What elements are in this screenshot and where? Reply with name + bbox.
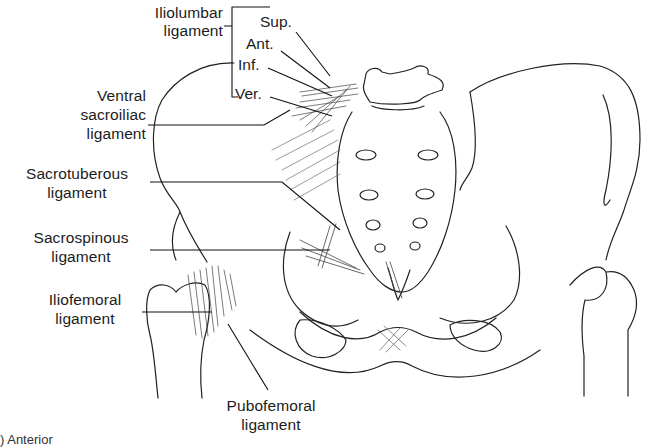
sacrospinous-label: Sacrospinous ligament [14,228,148,266]
ventral-sacroiliac-label: Ventral sacroiliac ligament [40,86,146,143]
left-obturator-foramen [295,320,346,358]
pelvic-brim [283,226,519,326]
iliolumbar-inf-label: Inf. [238,56,260,74]
iliolumbar-label: Iliolumbar ligament [128,4,223,40]
right-iliac-wing [470,64,640,260]
coccyx [388,268,410,300]
sacrotuberous-label: Sacrotuberous ligament [4,164,150,202]
ventral-sacroiliac-line1: Ventral [40,86,146,105]
pubofemoral-line2: ligament [206,415,336,434]
left-iliac-wing [153,63,234,262]
pubofemoral-label: Pubofemoral ligament [206,396,336,434]
right-femur [570,267,636,396]
ventral-sacroiliac-line3: ligament [40,124,146,143]
iliolumbar-label-line2: ligament [128,22,223,40]
sacrospinous-line1: Sacrospinous [14,228,148,247]
iliofemoral-line1: Iliofemoral [32,290,138,309]
left-femur [147,283,210,398]
iliolumbar-ant-label: Ant. [246,35,274,53]
sacrum [337,112,456,292]
right-obturator-foramen [450,320,501,351]
iliofemoral-label: Iliofemoral ligament [32,290,138,328]
sacrotuberous-line2: ligament [4,183,150,202]
ventral-sacroiliac-line2: sacroiliac [40,105,146,124]
iliolumbar-ver-label: Ver. [235,85,262,103]
lumbar-vertebra [363,66,443,104]
sacrotuberous-line1: Sacrotuberous [4,164,150,183]
iliofemoral-line2: ligament [32,309,138,328]
iliolumbar-sup-label: Sup. [260,13,292,31]
pubofemoral-line1: Pubofemoral [206,396,336,415]
figure-caption: ) Anterior [0,432,53,447]
sacrospinous-line2: ligament [14,247,148,266]
iliolumbar-label-line1: Iliolumbar [128,4,223,22]
